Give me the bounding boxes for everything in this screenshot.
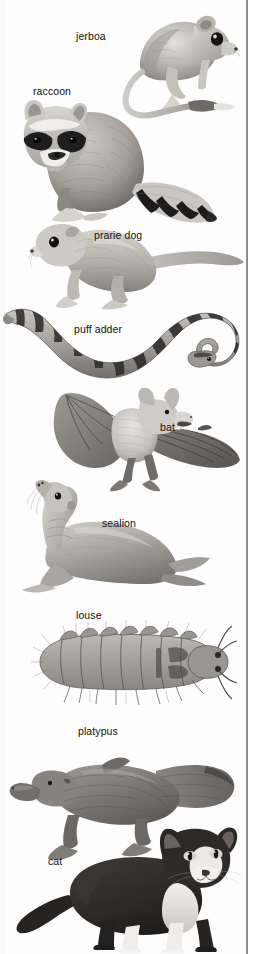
animal-illustration-plate: jerboa	[0, 0, 257, 954]
page-edge-right	[248, 0, 257, 954]
label-cat: cat	[48, 855, 62, 867]
label-jerboa: jerboa	[76, 30, 106, 42]
label-prarie-dog: prarie dog	[94, 229, 142, 241]
label-platypus: platypus	[78, 725, 118, 737]
figure-puff-adder	[2, 300, 250, 390]
figure-cat	[10, 825, 242, 953]
label-raccoon: raccoon	[33, 85, 71, 97]
label-bat: bat	[160, 421, 175, 433]
label-louse: louse	[76, 609, 102, 621]
label-sealion: sealion	[102, 517, 136, 529]
figure-sealion	[18, 480, 218, 598]
figure-raccoon	[10, 92, 225, 227]
figure-louse	[26, 620, 238, 705]
label-puff-adder: puff adder	[74, 323, 122, 335]
